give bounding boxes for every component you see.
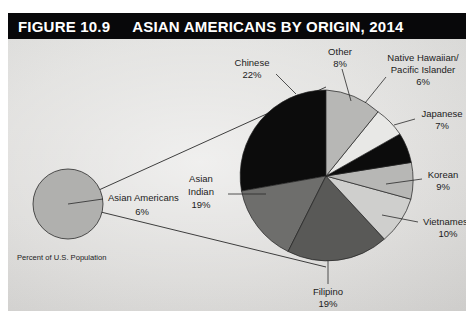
value-filipino: 19% [318,298,338,309]
slice-chinese[interactable] [240,90,326,191]
label-native-hawaiian-line2: Pacific Islander [391,64,455,75]
label-asian-indian-line1: Asian [189,173,213,184]
label-vietnamese: Vietnamese [423,216,466,227]
value-japanese: 7% [435,120,449,131]
value-asian-indian: 19% [191,199,211,210]
value-vietnamese: 10% [438,228,458,239]
label-korean: Korean [428,169,459,180]
label-asian-americans: Asian Americans [108,192,179,203]
label-native-hawaiian-line1: Native Hawaiian/ [387,52,459,63]
figure-number: FIGURE 10.9 [18,18,110,35]
label-chinese: Chinese [235,57,270,68]
value-chinese: 22% [242,69,262,80]
leader-native-hawaiian [365,77,386,103]
leader-japanese [394,119,415,125]
figure-container: FIGURE 10.9 ASIAN AMERICANS BY ORIGIN, 2… [0,0,475,328]
chart-caption: Percent of U.S. Population [17,253,107,262]
pie-chart: Chinese 22% Other 8% Native Hawaiian/ Pa… [8,39,466,311]
value-other: 8% [333,58,347,69]
value-native-hawaiian: 6% [416,76,430,87]
leader-chinese [276,74,296,94]
figure-header-bar: FIGURE 10.9 ASIAN AMERICANS BY ORIGIN, 2… [8,13,466,39]
value-asian-americans: 6% [135,206,149,217]
label-asian-indian-line2: Indian [188,186,214,197]
label-filipino: Filipino [313,286,343,297]
page-title: ASIAN AMERICANS BY ORIGIN, 2014 [132,18,403,35]
label-japanese: Japanese [421,108,462,119]
label-other: Other [328,46,352,57]
value-korean: 9% [436,181,450,192]
